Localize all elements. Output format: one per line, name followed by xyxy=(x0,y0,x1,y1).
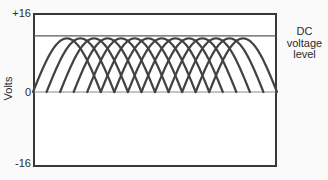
y-axis-label: Volts xyxy=(2,69,15,109)
y-tick-plus16: +16 xyxy=(2,7,31,19)
dc-label-line3: level xyxy=(281,49,328,61)
dc-voltage-level-label: DC voltage level xyxy=(281,26,328,61)
dc-label-line1: DC xyxy=(281,26,328,38)
y-tick-minus16: -16 xyxy=(2,157,31,169)
waveform-figure: +16 0 -16 Volts DC voltage level xyxy=(0,0,328,180)
waveform-plot xyxy=(0,0,328,180)
